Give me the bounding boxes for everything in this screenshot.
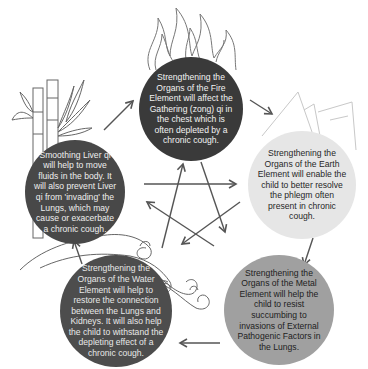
wood-element-node: Smoothing Liver qi will help to move flu…	[25, 140, 125, 244]
arrow-water-to-wood	[74, 241, 82, 264]
metal-element-text: Strengthening the Organs of the Metal El…	[233, 268, 325, 353]
metal-element-node: Strengthening the Organs of the Metal El…	[224, 255, 334, 365]
water-element-node: Strengthening the Organs of the Water El…	[60, 255, 172, 367]
arrow-fire-to-earth	[250, 100, 272, 114]
arrow-water-to-fire	[162, 164, 183, 248]
fire-element-text: Strengthening the Organs of the Fire Ele…	[147, 72, 235, 146]
earth-element-text: Strengthening the Organs of the Earth El…	[257, 148, 347, 222]
wood-element-text: Smoothing Liver qi will help to move flu…	[33, 150, 117, 235]
earth-element-node: Strengthening the Organs of the Earth El…	[248, 131, 356, 239]
arrow-metal-to-wood	[147, 202, 214, 246]
arrow-earth-to-water	[182, 202, 240, 244]
controlling-star-arrows	[144, 162, 240, 248]
water-element-text: Strengthening the Organs of the Water El…	[68, 263, 164, 358]
arrow-wood-to-fire	[104, 101, 133, 130]
fire-element-node: Strengthening the Organs of the Fire Ele…	[139, 57, 243, 161]
